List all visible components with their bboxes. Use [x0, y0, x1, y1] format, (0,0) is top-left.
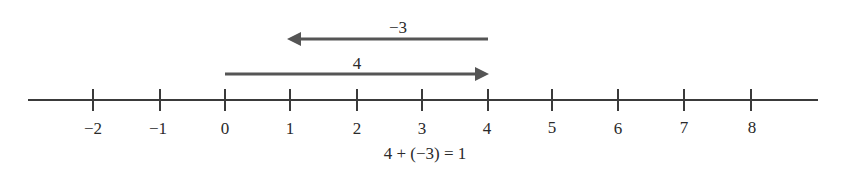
- arrowhead-right-icon: [475, 67, 489, 81]
- tick-label: 7: [680, 119, 689, 136]
- tick-label: 2: [353, 120, 362, 137]
- arrowhead-left-icon: [287, 32, 301, 46]
- tick-label: 0: [221, 120, 230, 137]
- equation-caption: 4 + (−3) = 1: [384, 145, 467, 162]
- arrow-label-positive-four: 4: [353, 55, 362, 72]
- tick-label: 4: [483, 120, 492, 137]
- tick-label: 5: [548, 119, 557, 136]
- tick-label: 8: [748, 119, 757, 136]
- tick-label: −2: [84, 120, 102, 137]
- tick-label: −1: [149, 120, 167, 137]
- tick-label: 1: [286, 120, 295, 137]
- tick-label: 6: [614, 120, 623, 137]
- arrow-negative-three: [287, 32, 488, 46]
- number-line-diagram: −3 4 −2 −1 0 1 2 3 4 5 6 7 8 4 + (−3) = …: [0, 0, 852, 171]
- tick-label: 3: [418, 120, 427, 137]
- arrow-label-negative-three: −3: [389, 19, 407, 36]
